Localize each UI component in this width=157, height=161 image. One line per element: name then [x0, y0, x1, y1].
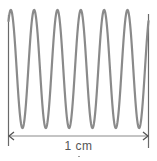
decorative-dot	[78, 156, 80, 157]
dimension-label: 1 cm	[0, 139, 157, 153]
wave-diagram	[0, 0, 157, 161]
sine-wave	[9, 10, 149, 128]
